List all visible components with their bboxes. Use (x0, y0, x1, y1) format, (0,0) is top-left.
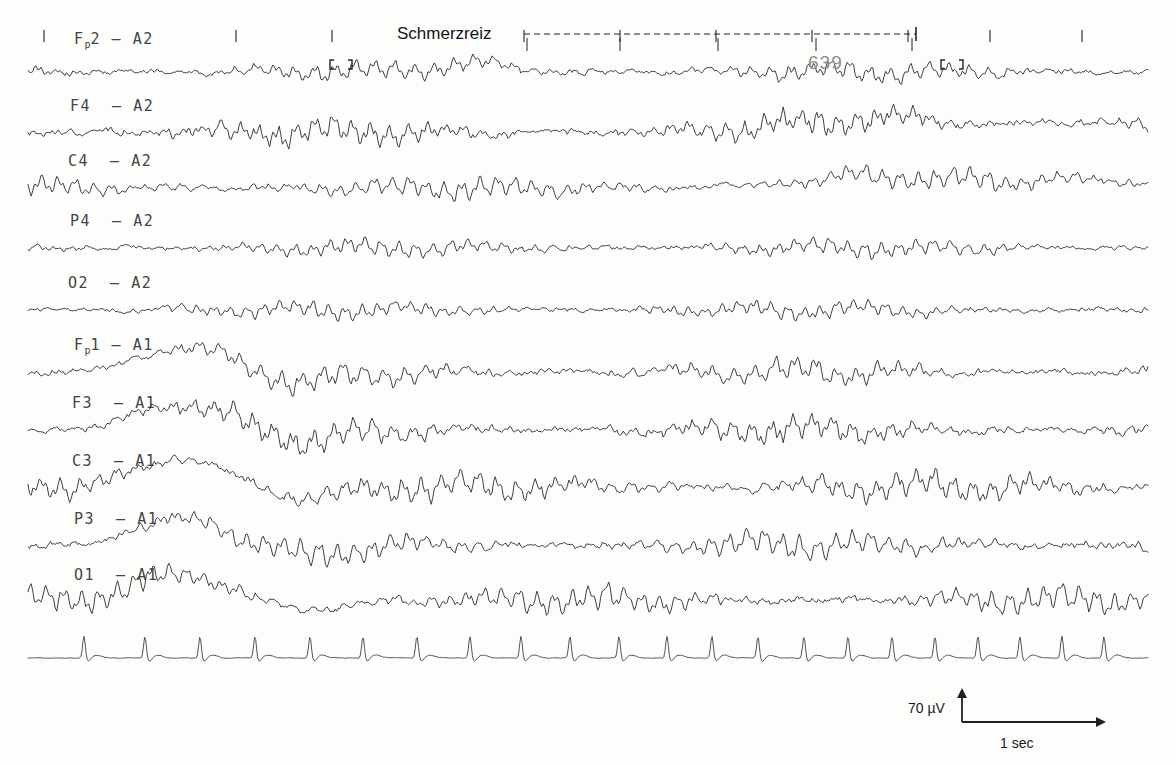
label-electrode: O1 (74, 566, 95, 584)
label-reference: A1 (135, 452, 156, 470)
label-subscript: p (85, 345, 91, 356)
channel-label-f3-a1: F3 – A1 (72, 394, 156, 412)
label-electrode: Fp2 (74, 30, 101, 48)
artifact-bracket-marker (348, 60, 352, 69)
channel-label-c3-a1: C3 – A1 (72, 452, 156, 470)
label-reference: A2 (131, 274, 152, 292)
artifact-bracket-marker (959, 60, 963, 69)
channel-label-p4-a2: P4 – A2 (70, 212, 154, 230)
artifact-bracket-marker (941, 60, 945, 69)
label-electrode: C4 (68, 152, 89, 170)
calibration-amplitude-label: 70 µV (908, 700, 945, 716)
label-electrode: P3 (74, 510, 95, 528)
label-reference: A2 (131, 152, 152, 170)
label-electrode: P4 (70, 212, 91, 230)
channel-label-o1-a1: O1 – A1 (74, 566, 158, 584)
label-reference: A1 (137, 510, 158, 528)
artifact-bracket-marker (330, 60, 334, 69)
label-electrode: F3 (72, 394, 93, 412)
channel-label-p3-a1: P3 – A1 (74, 510, 158, 528)
label-reference: A1 (133, 336, 154, 354)
channel-label-o2-a2: O2 – A2 (68, 274, 152, 292)
stimulus-label: Schmerzreiz (397, 24, 491, 44)
channel-label-fp2-a2: Fp2 – A2 (74, 30, 154, 50)
label-electrode: O2 (68, 274, 89, 292)
label-reference: A1 (137, 566, 158, 584)
label-electrode: Fp1 (74, 336, 101, 354)
label-electrode: C3 (72, 452, 93, 470)
label-subscript: p (85, 39, 91, 50)
label-reference: A1 (135, 394, 156, 412)
label-electrode: F4 (70, 97, 91, 115)
calibration-right-arrowhead (1096, 717, 1106, 727)
calibration-time-label: 1 sec (1000, 735, 1033, 751)
epoch-number: 639 (808, 52, 843, 74)
channel-label-f4-a2: F4 – A2 (70, 97, 154, 115)
label-reference: A2 (133, 30, 154, 48)
eeg-recording-sheet: Fp2 – A2F4 – A2C4 – A2P4 – A2O2 – A2Fp1 … (0, 0, 1176, 765)
label-reference: A2 (133, 212, 154, 230)
channel-label-c4-a2: C4 – A2 (68, 152, 152, 170)
calibration-up-arrowhead (957, 688, 967, 698)
label-reference: A2 (133, 97, 154, 115)
channel-label-fp1-a1: Fp1 – A1 (74, 336, 154, 356)
annotation-marks-layer (0, 0, 1176, 765)
